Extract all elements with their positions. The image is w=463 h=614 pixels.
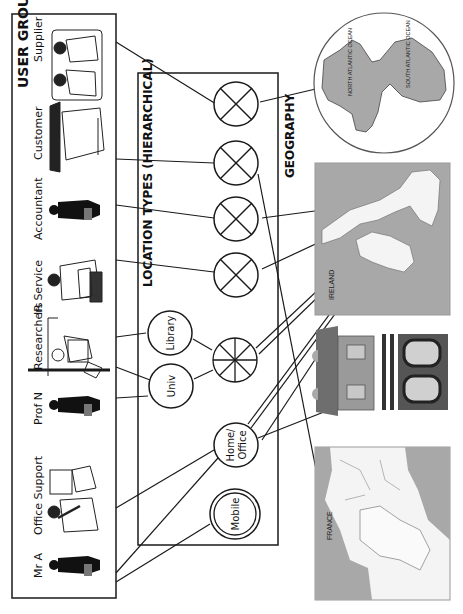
geography-title: GEOGRAPHY (283, 94, 297, 178)
location-node-mobile[interactable]: Mobile (210, 489, 260, 539)
accountant-figure-icon (49, 200, 100, 220)
ireland-label: IRELAND (328, 270, 335, 300)
label-customer: Customer (32, 106, 45, 160)
location-node-hub-wheel[interactable] (213, 338, 257, 382)
user-groups-title: USER GROUPS (15, 0, 31, 88)
location-node-univ[interactable]: Univ (149, 364, 193, 408)
univ-label: Univ (166, 375, 177, 397)
location-node-1[interactable] (214, 82, 258, 126)
location-types-title: LOCATION TYPES (HIERARCHICAL) (141, 58, 155, 287)
building-icon (312, 326, 448, 416)
location-node-home-office[interactable]: Home/ Office (214, 423, 258, 467)
label-office-support: Office Support (32, 455, 45, 535)
location-types-panel: LOCATION TYPES (HIERARCHICAL) GEOGRAPHY (138, 58, 297, 545)
prof-n-figure-icon (49, 396, 100, 416)
label-prof-n: Prof N (32, 392, 45, 425)
diagram-canvas: USER GROUPS Supplier Customer Accountant… (0, 0, 463, 614)
location-node-3[interactable] (214, 197, 258, 241)
mobile-label: Mobile (230, 498, 241, 531)
location-node-4[interactable] (214, 253, 258, 297)
location-node-library[interactable]: Library (148, 311, 192, 355)
globe-map-icon: NORTH ATLANTIC OCEAN SOUTH ATLANTIC OCEA… (314, 13, 454, 153)
ireland-map-icon: IRELAND (315, 163, 450, 315)
globe-label-north-atlantic: NORTH ATLANTIC OCEAN (347, 28, 353, 96)
library-label: Library (165, 315, 176, 350)
france-map-icon: FRANCE (315, 447, 450, 600)
label-supplier: Supplier (32, 16, 45, 62)
label-mr-a: Mr A (32, 552, 45, 578)
globe-label-south-atlantic: SOUTH ATLANTIC OCEAN (405, 20, 411, 88)
office-support-illustration-icon (48, 466, 98, 532)
ir-service-illustration-icon (48, 260, 102, 302)
label-researchers: Researchers (32, 302, 45, 370)
location-node-2[interactable] (214, 141, 258, 185)
label-accountant: Accountant (32, 177, 45, 240)
home-label: Home/ (225, 428, 236, 462)
france-label: FRANCE (326, 511, 333, 540)
supplier-illustration-icon (52, 30, 102, 100)
office-label: Office (237, 430, 248, 459)
mr-a-figure-icon (49, 556, 100, 576)
customer-illustration-icon (50, 102, 104, 172)
